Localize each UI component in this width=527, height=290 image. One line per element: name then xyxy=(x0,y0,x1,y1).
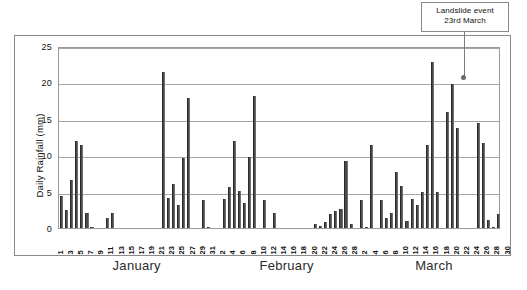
annotation-leader-arrow-icon xyxy=(461,75,466,80)
bar xyxy=(421,192,424,228)
x-axis-tick: 27 xyxy=(188,246,196,254)
bar xyxy=(324,222,327,228)
bar xyxy=(202,200,205,228)
x-axis-tick: 12 xyxy=(412,246,420,254)
y-axis-tick: 20 xyxy=(42,79,52,88)
bar xyxy=(431,62,434,228)
bar xyxy=(456,128,459,228)
x-axis-tick: 4 xyxy=(371,250,379,254)
annotation-leader-line xyxy=(464,32,465,78)
bar xyxy=(248,157,251,228)
x-axis-tick: 16 xyxy=(432,246,440,254)
bar xyxy=(233,141,236,228)
bar xyxy=(253,96,256,228)
bar xyxy=(365,227,368,228)
bar xyxy=(360,200,363,228)
bar xyxy=(106,218,109,228)
bar-series xyxy=(59,48,499,228)
rainfall-chart-figure: Daily Rainfall (mm) 0510152025 135791113… xyxy=(0,0,527,290)
bar xyxy=(238,191,241,228)
x-axis-tick: 31 xyxy=(208,246,216,254)
x-axis-tick: 12 xyxy=(269,246,277,254)
x-axis-tick: 28 xyxy=(493,246,501,254)
bar xyxy=(85,213,88,228)
bar xyxy=(75,141,78,228)
bar xyxy=(228,187,231,228)
plot-area xyxy=(58,47,500,229)
x-axis-tick: 14 xyxy=(280,246,288,254)
bar xyxy=(167,198,170,228)
bar xyxy=(80,145,83,228)
bar xyxy=(426,145,429,228)
bar xyxy=(223,199,226,228)
bar xyxy=(405,221,408,228)
bar xyxy=(314,224,317,228)
bar xyxy=(477,123,480,228)
bar xyxy=(497,214,500,228)
x-axis-tick: 4 xyxy=(229,250,237,254)
bar xyxy=(482,143,485,228)
x-axis-tick: 11 xyxy=(107,246,115,254)
y-axis-tick: 10 xyxy=(42,152,52,161)
month-label-february: February xyxy=(237,258,337,273)
x-axis-tick: 17 xyxy=(137,246,145,254)
bar xyxy=(172,184,175,228)
bar xyxy=(350,224,353,228)
x-axis-tick: 18 xyxy=(300,246,308,254)
x-axis-tick: 16 xyxy=(290,246,298,254)
bar xyxy=(243,203,246,228)
bar xyxy=(334,211,337,228)
x-axis-tick: 25 xyxy=(178,246,186,254)
y-axis-tick: 0 xyxy=(47,225,52,234)
bar xyxy=(416,205,419,228)
annotation-line-2: 23rd March xyxy=(422,16,508,26)
bar xyxy=(162,72,165,228)
x-axis-tick: 13 xyxy=(117,246,125,254)
x-axis-tick: 20 xyxy=(310,246,318,254)
x-axis-tick: 1 xyxy=(56,250,64,254)
bar xyxy=(182,158,185,228)
x-axis-tick: 6 xyxy=(239,250,247,254)
bar xyxy=(411,199,414,228)
x-axis-tick: 18 xyxy=(442,246,450,254)
x-axis-tick: 22 xyxy=(462,246,470,254)
annotation-line-1: Landslide event xyxy=(422,6,508,16)
x-axis-tick: 8 xyxy=(391,250,399,254)
x-axis-tick: 8 xyxy=(249,250,257,254)
bar xyxy=(339,209,342,228)
x-axis-tick: 6 xyxy=(381,250,389,254)
x-axis-tick: 24 xyxy=(473,246,481,254)
bar xyxy=(344,161,347,228)
bar xyxy=(60,196,63,228)
landslide-annotation-box: Landslide event 23rd March xyxy=(421,2,509,32)
x-axis-tick: 2 xyxy=(219,250,227,254)
x-axis-tick: 26 xyxy=(483,246,491,254)
x-axis-tick: 29 xyxy=(198,246,206,254)
bar xyxy=(177,205,180,228)
bar xyxy=(187,98,190,228)
bar xyxy=(492,227,495,228)
x-axis-tick: 26 xyxy=(341,246,349,254)
bar xyxy=(111,213,114,228)
bar xyxy=(70,180,73,228)
bar xyxy=(380,200,383,228)
bar xyxy=(370,145,373,228)
x-axis-tick: 7 xyxy=(87,250,95,254)
bar xyxy=(263,200,266,228)
bar xyxy=(436,192,439,228)
x-axis-tick: 22 xyxy=(320,246,328,254)
month-group-labels: JanuaryFebruaryMarch xyxy=(14,258,511,282)
x-axis-tick: 9 xyxy=(97,250,105,254)
month-label-march: March xyxy=(384,258,484,273)
x-axis-tick: 30 xyxy=(503,246,511,254)
x-axis-tick: 2 xyxy=(361,250,369,254)
bar xyxy=(385,218,388,228)
bar xyxy=(65,210,68,228)
bar xyxy=(329,214,332,228)
x-axis-tick: 10 xyxy=(259,246,267,254)
bar xyxy=(451,84,454,228)
month-label-january: January xyxy=(87,258,187,273)
x-axis-tick: 21 xyxy=(158,246,166,254)
x-axis-tick: 19 xyxy=(147,246,155,254)
y-axis-tick: 15 xyxy=(42,116,52,125)
